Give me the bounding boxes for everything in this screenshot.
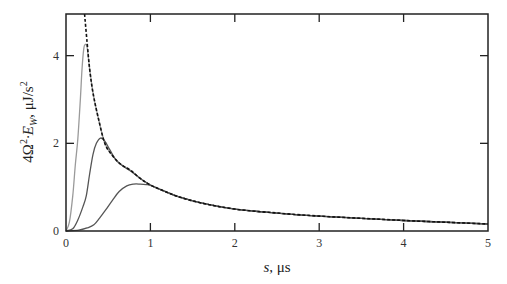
x-tick-label: 3 <box>316 236 322 250</box>
x-tick-label: 4 <box>401 236 407 250</box>
y-tick-label: 4 <box>53 49 59 63</box>
x-tick-label: 0 <box>63 236 69 250</box>
y-tick-label: 0 <box>53 224 59 238</box>
y-axis-title: 4Ω2·EW, μJ/s2 <box>18 81 39 162</box>
series-layer <box>66 14 488 231</box>
x-tick-label: 1 <box>147 236 153 250</box>
x-tick-label: 5 <box>485 236 491 250</box>
plot-frame <box>66 14 488 231</box>
x-axis-title: s, μs <box>263 259 290 275</box>
series-envelope <box>85 14 488 224</box>
series-curve-1 <box>66 44 488 231</box>
y-tick-label: 2 <box>53 136 59 150</box>
chart: 012345 024 s, μs 4Ω2·EW, μJ/s2 <box>0 0 507 284</box>
y-axis-ticks: 024 <box>53 49 488 238</box>
x-tick-label: 2 <box>232 236 238 250</box>
series-curve-3 <box>66 184 488 231</box>
x-axis-ticks: 012345 <box>63 14 491 250</box>
